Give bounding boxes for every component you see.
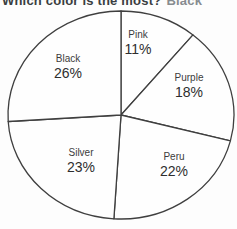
pie-slice-black [8,11,121,122]
pie-chart-figure: Which color is the most?Black Pink11%Pur… [0,0,237,229]
pie-slice-silver [8,115,121,219]
pie-chart [0,0,237,229]
